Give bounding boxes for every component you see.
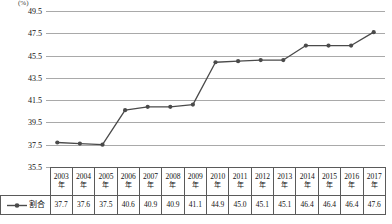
- table-cell-value: 40.9: [139, 196, 161, 215]
- table-corner-cell: [1, 168, 51, 196]
- legend-cell: 割合: [1, 196, 51, 215]
- column-header-year: 2003年: [50, 168, 72, 196]
- data-point-marker[interactable]: [78, 142, 82, 146]
- year-number: 2006: [121, 172, 136, 181]
- column-header-year: 2004年: [72, 168, 94, 196]
- year-suffix: 年: [102, 181, 109, 189]
- plot-area: 49.547.545.543.541.539.537.535.5: [46, 11, 385, 167]
- year-number: 2005: [98, 172, 113, 181]
- data-point-marker[interactable]: [281, 58, 285, 62]
- year-suffix: 年: [348, 181, 355, 189]
- table-cell-value: 45.1: [251, 196, 273, 215]
- data-point-marker[interactable]: [123, 108, 127, 112]
- y-axis-tick-label: 49.5: [28, 7, 42, 16]
- legend-line-marker-icon: [6, 201, 28, 210]
- year-suffix: 年: [281, 181, 288, 189]
- data-point-marker[interactable]: [259, 58, 263, 62]
- table-cell-value: 37.5: [95, 196, 117, 215]
- y-axis-tick-label: 37.5: [28, 140, 42, 149]
- y-axis-tick-label: 43.5: [28, 73, 42, 82]
- column-header-year: 2015年: [318, 168, 340, 196]
- data-point-marker[interactable]: [100, 143, 104, 147]
- column-header-year: 2005年: [95, 168, 117, 196]
- table-cell-value: 47.6: [363, 196, 385, 215]
- year-suffix: 年: [371, 181, 378, 189]
- column-header-year: 2010年: [207, 168, 229, 196]
- year-suffix: 年: [169, 181, 176, 189]
- column-header-year: 2012年: [251, 168, 273, 196]
- year-number: 2003: [54, 172, 69, 181]
- data-point-marker[interactable]: [213, 60, 217, 64]
- data-point-marker[interactable]: [191, 103, 195, 107]
- table-cell-value: 45.0: [229, 196, 251, 215]
- legend-label: 割合: [29, 201, 45, 210]
- column-header-year: 2008年: [162, 168, 184, 196]
- y-axis-tick-label: 39.5: [28, 118, 42, 127]
- data-point-marker[interactable]: [236, 59, 240, 63]
- year-suffix: 年: [304, 181, 311, 189]
- table-cell-value: 44.9: [207, 196, 229, 215]
- column-header-year: 2006年: [117, 168, 139, 196]
- year-number: 2004: [76, 172, 91, 181]
- column-header-year: 2009年: [184, 168, 206, 196]
- line-series-svg: [46, 11, 385, 167]
- year-suffix: 年: [192, 181, 199, 189]
- data-point-marker[interactable]: [168, 105, 172, 109]
- y-axis-unit-label: (%): [18, 0, 29, 7]
- year-suffix: 年: [237, 181, 244, 189]
- year-suffix: 年: [147, 181, 154, 189]
- table-row: 割合37.737.637.540.640.940.941.144.945.045…: [1, 196, 386, 215]
- table-cell-value: 46.4: [318, 196, 340, 215]
- year-number: 2008: [165, 172, 180, 181]
- column-header-year: 2016年: [341, 168, 363, 196]
- table-cell-value: 37.6: [72, 196, 94, 215]
- column-header-year: 2011年: [229, 168, 251, 196]
- table-cell-value: 46.4: [341, 196, 363, 215]
- column-header-year: 2013年: [274, 168, 296, 196]
- year-number: 2017: [367, 172, 382, 181]
- table-cell-value: 41.1: [184, 196, 206, 215]
- year-number: 2007: [143, 172, 158, 181]
- y-axis-tick-label: 41.5: [28, 96, 42, 105]
- table-cell-value: 37.7: [50, 196, 72, 215]
- year-suffix: 年: [125, 181, 132, 189]
- table-cell-value: 40.6: [117, 196, 139, 215]
- column-header-year: 2014年: [296, 168, 318, 196]
- year-number: 2011: [233, 172, 248, 181]
- y-axis-tick-label: 45.5: [28, 51, 42, 60]
- year-suffix: 年: [58, 181, 65, 189]
- data-point-marker[interactable]: [349, 43, 353, 47]
- table-cell-value: 40.9: [162, 196, 184, 215]
- data-point-marker[interactable]: [55, 140, 59, 144]
- year-number: 2010: [210, 172, 225, 181]
- y-axis-tick-label: 47.5: [28, 29, 42, 38]
- data-table: 2003年2004年2005年2006年2007年2008年2009年2010年…: [0, 167, 386, 215]
- year-suffix: 年: [80, 181, 87, 189]
- year-suffix: 年: [259, 181, 266, 189]
- column-header-year: 2017年: [363, 168, 385, 196]
- year-number: 2009: [188, 172, 203, 181]
- year-number: 2014: [300, 172, 315, 181]
- table-header-row: 2003年2004年2005年2006年2007年2008年2009年2010年…: [1, 168, 386, 196]
- column-header-year: 2007年: [139, 168, 161, 196]
- year-suffix: 年: [326, 181, 333, 189]
- data-point-marker[interactable]: [326, 43, 330, 47]
- data-point-marker[interactable]: [304, 43, 308, 47]
- year-number: 2015: [322, 172, 337, 181]
- data-point-marker[interactable]: [372, 30, 376, 34]
- chart-figure: (%) 49.547.545.543.541.539.537.535.5 200…: [0, 0, 392, 224]
- year-number: 2012: [255, 172, 270, 181]
- series-line: [57, 32, 373, 145]
- table-cell-value: 45.1: [274, 196, 296, 215]
- year-number: 2013: [277, 172, 292, 181]
- year-number: 2016: [344, 172, 359, 181]
- data-point-marker[interactable]: [146, 105, 150, 109]
- year-suffix: 年: [214, 181, 221, 189]
- table-cell-value: 46.4: [296, 196, 318, 215]
